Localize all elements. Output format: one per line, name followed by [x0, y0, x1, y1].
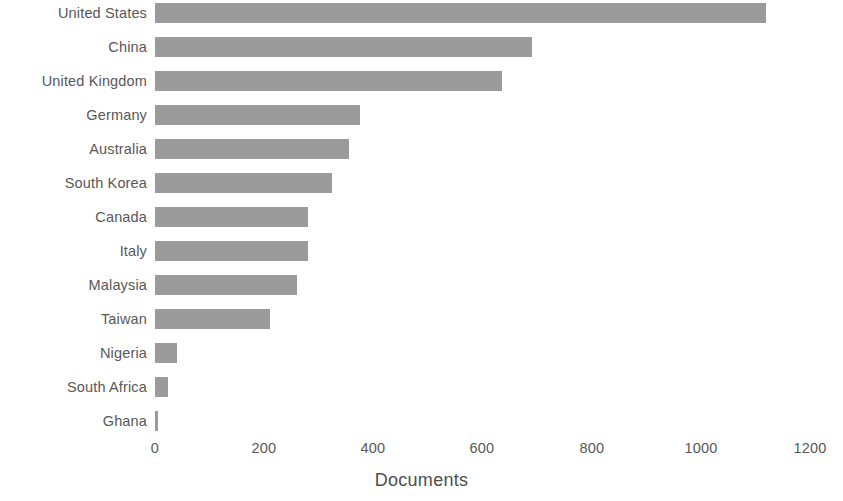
x-axis-title: Documents — [0, 470, 843, 491]
x-tick-label-0: 0 — [115, 440, 195, 456]
bar-malaysia — [155, 275, 297, 295]
table-row: Nigeria — [0, 340, 843, 374]
x-tick-label-1000: 1000 — [661, 440, 741, 456]
category-label-canada: Canada — [0, 204, 147, 238]
bar-south-africa — [155, 377, 168, 397]
table-row: Australia — [0, 136, 843, 170]
bar-ghana — [155, 411, 158, 431]
bar-germany — [155, 105, 360, 125]
category-label-ghana: Ghana — [0, 408, 147, 442]
x-axis: 0 200 400 600 800 1000 1200 — [0, 440, 843, 466]
category-label-nigeria: Nigeria — [0, 340, 147, 374]
bar-united-states — [155, 3, 766, 23]
category-label-germany: Germany — [0, 102, 147, 136]
bar-canada — [155, 207, 308, 227]
table-row: Malaysia — [0, 272, 843, 306]
table-row: South Korea — [0, 170, 843, 204]
x-tick-label-800: 800 — [552, 440, 632, 456]
x-tick-label-600: 600 — [442, 440, 522, 456]
category-label-taiwan: Taiwan — [0, 306, 147, 340]
table-row: Taiwan — [0, 306, 843, 340]
category-label-australia: Australia — [0, 136, 147, 170]
category-label-united-kingdom: United Kingdom — [0, 68, 147, 102]
plot-area: United States China United Kingdom Germa… — [0, 0, 843, 436]
bar-chart: United States China United Kingdom Germa… — [0, 0, 843, 501]
category-label-united-states: United States — [0, 0, 147, 34]
bar-australia — [155, 139, 349, 159]
category-label-italy: Italy — [0, 238, 147, 272]
bar-united-kingdom — [155, 71, 502, 91]
bar-taiwan — [155, 309, 270, 329]
table-row: United Kingdom — [0, 68, 843, 102]
category-label-china: China — [0, 34, 147, 68]
table-row: United States — [0, 0, 843, 34]
x-tick-label-400: 400 — [333, 440, 413, 456]
bar-south-korea — [155, 173, 332, 193]
bar-italy — [155, 241, 308, 261]
table-row: China — [0, 34, 843, 68]
x-tick-label-1200: 1200 — [770, 440, 843, 456]
category-label-malaysia: Malaysia — [0, 272, 147, 306]
x-tick-label-200: 200 — [224, 440, 304, 456]
category-label-south-korea: South Korea — [0, 170, 147, 204]
table-row: Italy — [0, 238, 843, 272]
table-row: South Africa — [0, 374, 843, 408]
bar-china — [155, 37, 532, 57]
table-row: Canada — [0, 204, 843, 238]
bar-nigeria — [155, 343, 177, 363]
table-row: Ghana — [0, 408, 843, 442]
category-label-south-africa: South Africa — [0, 374, 147, 408]
table-row: Germany — [0, 102, 843, 136]
